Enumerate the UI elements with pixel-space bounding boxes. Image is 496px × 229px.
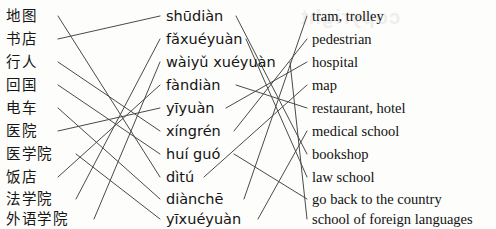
english-item-9[interactable]: school of foreign languages [312,212,473,227]
hanzi-item-2[interactable]: 行人 [6,55,37,70]
english-item-2[interactable]: hospital [312,55,358,70]
english-item-0[interactable]: tram, trolley [312,9,384,24]
connection-line-english-xingren [234,39,307,131]
english-item-5[interactable]: medical school [312,124,399,139]
connection-line-english-yixueyuan [258,131,307,219]
hanzi-item-6[interactable]: 医学院 [6,147,53,162]
connection-line-hanzi-yiyuan [58,108,160,131]
connection-line-hanzi-ditu [58,16,160,177]
pinyin-item-5[interactable]: xíngrén [166,124,221,139]
pinyin-item-3[interactable]: fàndiàn [166,78,221,93]
english-item-6[interactable]: bookshop [312,147,368,162]
pinyin-item-6[interactable]: huí guó [166,147,220,162]
hanzi-item-0[interactable]: 地图 [6,9,37,24]
connection-line-hanzi-faxueyuan [76,39,160,199]
connection-line-hanzi-dianche [58,108,160,199]
pinyin-item-0[interactable]: shūdiàn [166,9,223,24]
hanzi-item-9[interactable]: 外语学院 [6,212,68,227]
pinyin-item-1[interactable]: fǎxuéyuàn [166,32,243,47]
matching-exercise-sheet: copyright 地图 书店 行人 回国 电车 医院 医学院 饭店 法学院 外… [0,0,496,229]
pinyin-item-7[interactable]: dìtú [166,170,194,185]
pinyin-item-8[interactable]: diànchē [166,192,223,207]
connection-line-hanzi-waiyuxueyuan [94,62,160,219]
connection-line-hanzi-huiguo [58,85,160,154]
pinyin-item-9[interactable]: yīxuéyuàn [166,212,241,227]
english-item-3[interactable]: map [312,78,337,93]
hanzi-item-7[interactable]: 饭店 [6,170,37,185]
pinyin-item-4[interactable]: yīyuàn [166,101,214,116]
connection-line-hanzi-yixueyuan [76,154,160,219]
connection-line-english-shudian [236,16,307,154]
hanzi-item-3[interactable]: 回国 [6,78,37,93]
english-item-8[interactable]: go back to the country [312,192,442,207]
connection-line-hanzi-fandian [58,85,160,177]
pinyin-item-2[interactable]: wàiyǔ xuéyuàn [166,55,276,70]
connection-line-hanzi-xingren [58,62,160,131]
hanzi-item-1[interactable]: 书店 [6,32,37,47]
connection-line-english-dianche [244,16,307,199]
english-item-1[interactable]: pedestrian [312,32,372,47]
connection-line-english-huiguo [234,154,307,199]
connection-line-english-waiyuxueyuan [290,62,307,219]
hanzi-item-5[interactable]: 医院 [6,124,37,139]
hanzi-item-8[interactable]: 法学院 [6,192,53,207]
hanzi-item-4[interactable]: 电车 [6,101,37,116]
english-item-7[interactable]: law school [312,170,374,185]
connection-line-hanzi-shudian [58,16,160,39]
english-item-4[interactable]: restaurant, hotel [312,101,405,116]
connection-line-english-fandian [236,85,307,108]
